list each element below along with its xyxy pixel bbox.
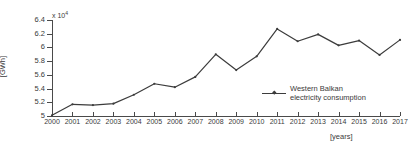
legend-entry-line-2: electricity consumption	[290, 93, 366, 102]
series-data-point	[133, 94, 135, 96]
series-line-western-balkan	[52, 29, 400, 115]
series-data-point	[276, 28, 278, 30]
series-data-point	[297, 40, 299, 42]
series-data-point	[194, 76, 196, 78]
series-data-point	[378, 54, 380, 56]
series-data-point	[112, 103, 114, 105]
legend-entry-line-1: Western Balkan	[290, 84, 366, 93]
series-data-point	[235, 69, 237, 71]
series-data-point	[337, 44, 339, 46]
series-data-point	[399, 39, 401, 41]
series-data-point	[358, 39, 360, 41]
series-data-point	[256, 55, 258, 57]
series-data-point	[174, 86, 176, 88]
series-data-point	[51, 114, 53, 116]
legend-entry-label: Western Balkan electricity consumption	[290, 84, 366, 102]
series-data-point	[153, 83, 155, 85]
series-markers	[51, 28, 401, 117]
series-data-point	[215, 53, 217, 55]
series-data-point	[71, 103, 73, 105]
series-data-point	[92, 104, 94, 106]
legend: Western Balkan electricity consumption	[262, 84, 366, 102]
legend-line-sample	[262, 90, 286, 97]
chart-figure: x 104 [GWh] [years] 6.46.265.85.65.45.25…	[0, 0, 420, 154]
series-data-point	[317, 33, 319, 35]
series-plot	[0, 0, 420, 154]
